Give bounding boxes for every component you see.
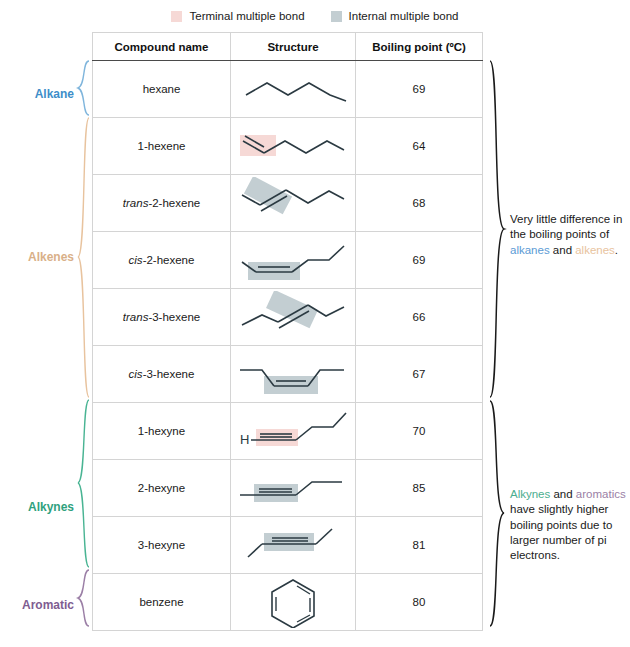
compound-name-benzene: benzene	[93, 574, 231, 631]
stereo-prefix: cis	[129, 368, 143, 380]
category-brace-alkenes	[76, 117, 90, 402]
annotation-text-part-1: and	[550, 488, 576, 500]
table-row: cis-2-hexene 69	[93, 232, 483, 289]
annotation-text-part-1: Very little difference in the boiling po…	[510, 213, 622, 240]
legend-label-terminal: Terminal multiple bond	[189, 10, 304, 22]
structure-cis-2-hexene	[231, 232, 356, 289]
structure-hexane	[231, 61, 356, 118]
boiling-point-trans-2-hexene: 68	[356, 175, 483, 232]
table-row: 1-hexyne H 70	[93, 403, 483, 460]
compound-table: Compound name Structure Boiling point (º…	[92, 32, 483, 631]
boiling-point-1-hexene: 64	[356, 118, 483, 175]
table-row: trans-2-hexene 68	[93, 175, 483, 232]
category-label-alkenes: Alkenes	[4, 250, 74, 264]
boiling-point-cis-2-hexene: 69	[356, 232, 483, 289]
table-body: hexane 69 1-hexene 64 tra	[93, 61, 483, 631]
table-header: Compound name Structure Boiling point (º…	[93, 33, 483, 61]
annotation-text-part-2: have slightly higher boiling points due …	[510, 503, 612, 561]
table-row: cis-3-hexene 67	[93, 346, 483, 403]
category-brace-alkane	[76, 60, 90, 120]
legend-item-terminal: Terminal multiple bond	[171, 10, 304, 22]
annotation-keyword-alkynes: Alkynes	[510, 488, 550, 500]
structure-2-hexyne	[231, 460, 356, 517]
compound-name-trans-2-hexene: trans-2-hexene	[93, 175, 231, 232]
stereo-prefix: cis	[129, 254, 143, 266]
annotation-text-part-3: .	[615, 244, 618, 256]
boiling-point-3-hexyne: 81	[356, 517, 483, 574]
internal-bond-color-swatch-icon	[331, 11, 342, 22]
annotation-keyword-alkenes: alkenes	[575, 244, 615, 256]
annotation-alkanes-alkenes: Very little difference in the boiling po…	[510, 212, 630, 258]
table-row: trans-3-hexene 66	[93, 289, 483, 346]
category-label-alkynes: Alkynes	[4, 500, 74, 514]
structure-1-hexene	[231, 118, 356, 175]
table-row: 1-hexene 64	[93, 118, 483, 175]
annotation-brace-alkanes-alkenes	[487, 60, 507, 402]
compound-name-suffix: -2-hexene	[143, 254, 195, 266]
compound-name-suffix: -3-hexene	[148, 311, 200, 323]
table-row: 2-hexyne 85	[93, 460, 483, 517]
boiling-point-2-hexyne: 85	[356, 460, 483, 517]
legend-label-internal: Internal multiple bond	[349, 10, 459, 22]
compound-table-container: Compound name Structure Boiling point (º…	[92, 32, 482, 631]
compound-name-cis-3-hexene: cis-3-hexene	[93, 346, 231, 403]
boiling-point-hexane: 69	[356, 61, 483, 118]
table-row: benzene 80	[93, 574, 483, 631]
legend: Terminal multiple bond Internal multiple…	[0, 10, 630, 22]
compound-name-hexane: hexane	[93, 61, 231, 118]
structure-trans-2-hexene	[231, 175, 356, 232]
category-brace-alkynes	[76, 399, 90, 572]
compound-name-cis-2-hexene: cis-2-hexene	[93, 232, 231, 289]
hydrogen-label: H	[240, 432, 249, 447]
table-header-row: Compound name Structure Boiling point (º…	[93, 33, 483, 61]
category-brace-aromatic	[76, 569, 90, 631]
compound-name-1-hexyne: 1-hexyne	[93, 403, 231, 460]
column-header-compound-name: Compound name	[93, 33, 231, 61]
column-header-structure: Structure	[231, 33, 356, 61]
compound-name-3-hexyne: 3-hexyne	[93, 517, 231, 574]
boiling-point-cis-3-hexene: 67	[356, 346, 483, 403]
stereo-prefix: trans	[123, 197, 149, 209]
compound-name-1-hexene: 1-hexene	[93, 118, 231, 175]
annotation-text-part-2: and	[550, 244, 576, 256]
compound-name-2-hexyne: 2-hexyne	[93, 460, 231, 517]
annotation-alkynes-aromatics: Alkynes and aromatics have slightly high…	[510, 487, 630, 563]
structure-3-hexyne	[231, 517, 356, 574]
stereo-prefix: trans	[123, 311, 149, 323]
annotation-keyword-aromatics: aromatics	[576, 488, 626, 500]
structure-benzene	[231, 574, 356, 631]
structure-cis-3-hexene	[231, 346, 356, 403]
structure-1-hexyne: H	[231, 403, 356, 460]
compound-name-suffix: -2-hexene	[148, 197, 200, 209]
boiling-point-1-hexyne: 70	[356, 403, 483, 460]
terminal-bond-color-swatch-icon	[171, 11, 182, 22]
boiling-point-trans-3-hexene: 66	[356, 289, 483, 346]
annotation-brace-alkynes-aromatics	[487, 400, 507, 631]
table-row: 3-hexyne 81	[93, 517, 483, 574]
category-label-aromatic: Aromatic	[0, 598, 74, 612]
column-header-boiling-point: Boiling point (ºC)	[356, 33, 483, 61]
structure-trans-3-hexene	[231, 289, 356, 346]
compound-name-trans-3-hexene: trans-3-hexene	[93, 289, 231, 346]
legend-item-internal: Internal multiple bond	[331, 10, 459, 22]
table-row: hexane 69	[93, 61, 483, 118]
annotation-keyword-alkanes: alkanes	[510, 244, 550, 256]
compound-name-suffix: -3-hexene	[143, 368, 195, 380]
boiling-point-benzene: 80	[356, 574, 483, 631]
category-label-alkane: Alkane	[8, 87, 74, 101]
